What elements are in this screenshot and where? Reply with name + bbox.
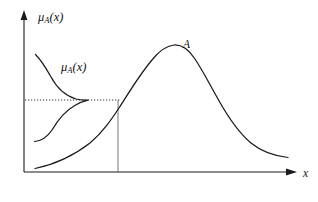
figure-canvas <box>0 0 318 202</box>
x-axis-arrow-icon <box>286 169 297 176</box>
rotated-curve-label-argument: (x) <box>72 60 86 74</box>
x-axis-label: x <box>303 168 308 180</box>
y-axis-label: μA(x) <box>38 11 63 24</box>
rotated-curve-label: μA(x) <box>61 61 86 74</box>
y-axis-arrow-icon <box>21 10 28 20</box>
y-axis-label-argument: (x) <box>49 10 63 24</box>
fuzzy-membership-figure: μA(x) μA(x) A x <box>0 0 318 202</box>
fuzzy-set-label: A <box>183 39 190 51</box>
